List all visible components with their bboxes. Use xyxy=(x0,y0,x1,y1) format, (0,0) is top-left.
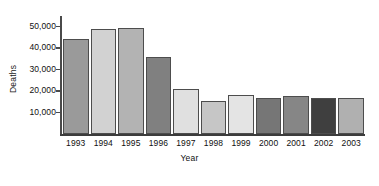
x-tick-label: 1996 xyxy=(145,138,173,148)
bar xyxy=(146,57,172,134)
bar-series xyxy=(62,16,365,134)
x-tick-label: 2002 xyxy=(310,138,338,148)
y-tick-label: 40,000 xyxy=(10,42,56,52)
bar xyxy=(63,39,89,134)
y-tick-mark xyxy=(56,26,61,27)
y-tick-label: 20,000 xyxy=(10,85,56,95)
x-tick-label: 1995 xyxy=(117,138,145,148)
x-tick-label: 1999 xyxy=(227,138,255,148)
y-tick-mark xyxy=(56,69,61,70)
y-tick-label: 10,000 xyxy=(10,107,56,117)
x-tick-label: 1994 xyxy=(90,138,118,148)
bar xyxy=(228,95,254,134)
x-tick-label: 1993 xyxy=(62,138,90,148)
x-tick-label: 2000 xyxy=(255,138,283,148)
bar xyxy=(311,98,337,134)
bar xyxy=(118,28,144,134)
x-axis-title: Year xyxy=(0,153,379,163)
x-tick-label: 2001 xyxy=(282,138,310,148)
bar xyxy=(338,98,364,134)
y-tick-mark xyxy=(56,112,61,113)
y-tick-mark xyxy=(56,90,61,91)
bar xyxy=(283,96,309,134)
plot-area xyxy=(60,16,365,135)
x-axis-line xyxy=(60,134,365,136)
y-tick-label: 50,000 xyxy=(10,21,56,31)
y-tick-mark xyxy=(56,47,61,48)
bar-chart: Deaths 10,00020,00030,00040,00050,000 19… xyxy=(0,0,379,186)
bar xyxy=(91,29,117,134)
x-tick-label: 1997 xyxy=(172,138,200,148)
x-axis-tick-labels: 1993199419951996199719981999200020012002… xyxy=(60,138,372,152)
bar xyxy=(256,98,282,134)
bar xyxy=(173,89,199,134)
x-tick-label: 1998 xyxy=(200,138,228,148)
bar xyxy=(201,101,227,134)
y-tick-label: 30,000 xyxy=(10,64,56,74)
x-tick-label: 2003 xyxy=(337,138,365,148)
